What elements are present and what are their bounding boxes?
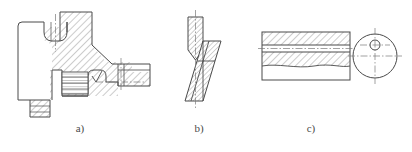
- engineering-drawing: a) b) c): [0, 0, 412, 152]
- panel-c-longitudinal-section: [262, 32, 350, 80]
- panel-c: [258, 28, 402, 84]
- caption-b: b): [194, 122, 204, 135]
- figure-root: a) b) c): [0, 0, 412, 152]
- panel-a-threaded-boss: [62, 72, 88, 94]
- caption-c: c): [307, 122, 316, 135]
- panel-c-end-view: [348, 28, 402, 84]
- caption-a: a): [76, 122, 85, 135]
- panel-a: [18, 12, 150, 117]
- panel-b: [185, 10, 221, 110]
